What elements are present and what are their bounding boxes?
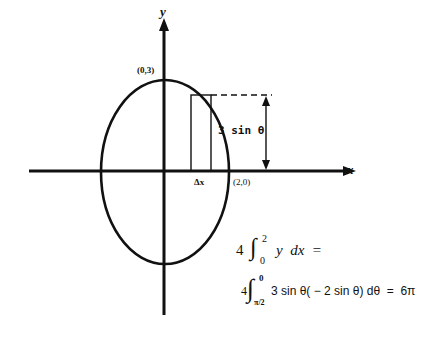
- formula-1-lower-limit: 0: [260, 255, 265, 266]
- strip-height-label: 3 sin θ: [218, 124, 264, 137]
- y-axis-label: y: [160, 4, 166, 20]
- formula-line-1: 4 ∫ 2 0 y dx =: [236, 236, 356, 266]
- formula-1-coefficient: 4: [236, 242, 244, 259]
- formula-1-upper-limit: 2: [262, 233, 267, 244]
- formula-2-lower-limit: π/2: [254, 298, 265, 307]
- height-arrow-top-head: [262, 96, 270, 106]
- x-axis-label: x: [347, 162, 354, 178]
- formula-line-2: 4 ∫ 0 π/2 3 sin θ( − 2 sin θ) dθ = 6π: [241, 276, 425, 310]
- formula-1-integrand: y dx =: [276, 242, 322, 259]
- height-arrow-bottom-head: [262, 160, 270, 170]
- area-strip: [191, 95, 211, 171]
- strip-width-label: Δx: [194, 177, 204, 187]
- point-label-right: (2,0): [233, 177, 250, 187]
- formula-2-upper-limit: 0: [259, 273, 264, 283]
- point-label-top: (0,3): [137, 65, 154, 75]
- integral-sign-icon: ∫: [250, 234, 257, 261]
- formula-2-integrand: 3 sin θ( − 2 sin θ) dθ = 6π: [271, 284, 415, 298]
